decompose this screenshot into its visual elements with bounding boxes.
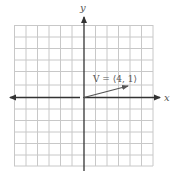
x-axis-label: x [164, 92, 170, 103]
vector-label: V = ⟨4, 1⟩ [92, 74, 137, 84]
coordinate-plane: x y V = ⟨4, 1⟩ [0, 0, 175, 172]
vector-arrow [84, 86, 128, 98]
y-axis-label: y [79, 2, 86, 13]
